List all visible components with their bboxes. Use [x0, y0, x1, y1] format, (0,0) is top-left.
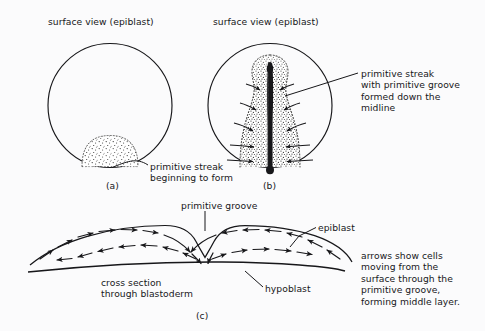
panel-a-header: surface view (epiblast) — [48, 16, 154, 27]
cell-flow-right-outbound — [212, 249, 312, 259]
panel-b-header: surface view (epiblast) — [213, 16, 319, 27]
panel-a-id: (a) — [106, 180, 119, 191]
panel-b-artwork — [208, 44, 358, 175]
epiblast-label: epiblast — [318, 222, 355, 233]
arrows-explanation-note: arrows show cells moving from the surfac… — [361, 250, 460, 307]
primitive-groove-label: primitive groove — [181, 200, 257, 211]
hypoblast-line — [28, 262, 345, 272]
epiblast-surface — [30, 226, 352, 266]
panel-c-id: (c) — [196, 310, 208, 321]
primitive-streak-figure: surface view (epiblast) surface view (ep… — [0, 0, 485, 331]
cross-section-label: cross section through blastoderm — [101, 277, 193, 300]
panel-b-callout: primitive streak with primitive groove f… — [361, 68, 460, 114]
hypoblast-label: hypoblast — [265, 283, 311, 294]
panel-a-artwork — [48, 44, 172, 168]
cell-flow-right-inbound — [191, 230, 340, 260]
panel-b-id: (b) — [263, 180, 276, 191]
leader-line-streak-b — [285, 73, 358, 96]
cell-flow-left-inbound — [40, 230, 190, 260]
panel-a-callout: primitive streak beginning to form — [150, 161, 233, 184]
cell-flow-left-outbound — [57, 245, 196, 260]
leader-line-hypoblast — [245, 271, 263, 287]
panel-c-artwork — [28, 211, 352, 287]
